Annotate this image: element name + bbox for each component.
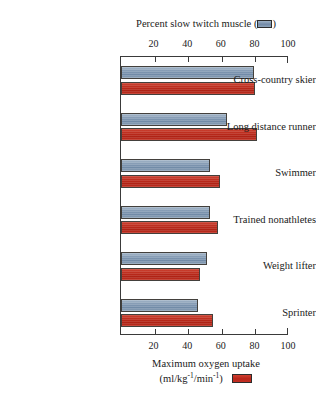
legend-swatch-red-icon — [232, 374, 252, 383]
category-label: Cross-country skier — [200, 74, 316, 86]
top-tick-label: 60 — [216, 38, 226, 49]
legend-swatch-blue-icon — [257, 20, 272, 28]
category-label: Trained nonathletes — [200, 214, 316, 226]
category-label: Swimmer — [200, 167, 316, 179]
units-prefix: (ml/kg — [160, 373, 188, 384]
bottom-tick-label: 40 — [182, 340, 192, 351]
bar-chart: Percent slow twitch muscle () 2040608010… — [0, 0, 316, 400]
plot-area — [120, 56, 288, 335]
bar-percent-slow-twitch — [121, 252, 207, 265]
top-tick-label: 100 — [281, 38, 296, 49]
bottom-tick-label: 100 — [281, 340, 296, 351]
bottom-tick-label: 20 — [149, 340, 159, 351]
bar-max-oxygen-uptake — [121, 268, 200, 281]
top-axis-title-suffix: ) — [272, 18, 276, 29]
bottom-axis-title-line2: (ml/kg-1/min-1) — [120, 372, 292, 387]
bottom-tick-label: 80 — [249, 340, 259, 351]
units-suffix: ) — [219, 373, 223, 384]
bottom-axis-title-line1: Maximum oxygen uptake — [120, 357, 292, 372]
units-middle: /min — [194, 373, 213, 384]
top-tick-label: 80 — [249, 38, 259, 49]
bottom-axis-tick-labels: 20406080100 — [120, 340, 288, 353]
top-axis-title: Percent slow twitch muscle () — [120, 17, 292, 30]
bar-percent-slow-twitch — [121, 159, 210, 172]
bar-percent-slow-twitch — [121, 299, 198, 312]
bar-percent-slow-twitch — [121, 206, 210, 219]
category-label: Sprinter — [200, 307, 316, 319]
top-axis-title-text: Percent slow twitch muscle ( — [136, 18, 257, 29]
bottom-tick-label: 60 — [216, 340, 226, 351]
bottom-axis-title: Maximum oxygen uptake (ml/kg-1/min-1) — [120, 357, 292, 386]
top-tick-label: 40 — [182, 38, 192, 49]
top-axis-tick-labels: 20406080100 — [120, 38, 288, 51]
top-tick-label: 20 — [149, 38, 159, 49]
category-label: Weight lifter — [200, 260, 316, 272]
category-label: Long distance runner — [200, 121, 316, 133]
